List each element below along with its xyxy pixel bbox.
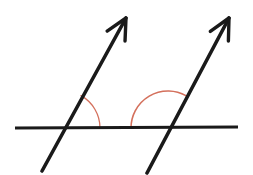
geometry-diagram-canvas: [0, 0, 253, 175]
geometry-svg: [0, 0, 253, 175]
transversal-horizontal-line: [15, 127, 238, 128]
